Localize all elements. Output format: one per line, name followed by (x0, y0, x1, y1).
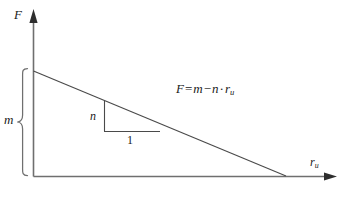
intercept-brace-label: m (4, 113, 13, 126)
y-axis-arrowhead (29, 9, 37, 23)
y-axis-label: F (14, 8, 22, 21)
x-axis-label: ru (310, 156, 319, 170)
equation-term-n: n (212, 81, 219, 96)
vertical-axis (29, 9, 37, 177)
data-line (34, 71, 287, 176)
equation-minus-sign: − (203, 81, 212, 96)
intercept-brace (18, 69, 28, 176)
equation-term-m: m (193, 81, 202, 96)
slope-triangle (104, 101, 160, 132)
figure-canvas (0, 0, 343, 201)
equation-lhs: F (176, 81, 184, 96)
equation-annotation: F=m−n·ru (176, 82, 234, 97)
diagram-root: F m n 1 ru F=m−n·ru (0, 0, 343, 201)
horizontal-axis (34, 173, 338, 181)
slope-run-label: 1 (127, 134, 133, 146)
equation-term-r-subscript: u (230, 87, 234, 97)
equation-equals-sign: = (184, 81, 193, 96)
slope-rise-label: n (90, 110, 96, 122)
x-axis-label-subscript: u (315, 161, 319, 170)
x-axis-arrowhead (324, 173, 337, 181)
